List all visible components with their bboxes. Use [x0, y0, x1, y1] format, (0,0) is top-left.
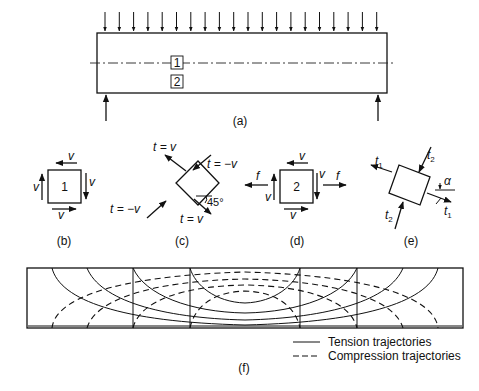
shear-label-right: v: [89, 175, 96, 189]
panel-a-beam: 1 2 (a): [90, 12, 395, 128]
panel-b-element-1: 1 v v v v (b): [33, 149, 96, 248]
normal-label-right: f: [336, 169, 341, 183]
caption-d: (d): [290, 234, 305, 248]
caption-f: (f): [238, 361, 249, 375]
element-2-number: 2: [293, 180, 300, 194]
shear-label-bottom: v: [58, 208, 65, 222]
stress-trajectory-figure: 1 2 (a) 1 v v v v (b) t = v t = −v t = −…: [0, 0, 479, 391]
panel-f-stress-trajectories: Tension trajectories Compression traject…: [27, 268, 463, 375]
alpha-label: α: [444, 174, 452, 188]
angle-45-label: 45°: [207, 196, 224, 208]
element-1-label: 1: [174, 56, 181, 70]
panel-d-element-2: 2 v v v v f f (d): [245, 149, 346, 248]
shear-label-left: v: [33, 180, 40, 194]
caption-b: (b): [57, 234, 72, 248]
legend-tension-label: Tension trajectories: [328, 335, 431, 349]
t1-label-left: t1: [375, 154, 383, 170]
t1-label-right: t1: [444, 204, 452, 220]
element-1-number: 1: [61, 180, 68, 194]
caption-a: (a): [233, 114, 248, 128]
t2-label-top: t2: [427, 148, 435, 164]
distributed-load-arrows: [105, 12, 377, 31]
compression-arrow-lower-left: [147, 201, 166, 218]
label-t-eq-minus-v-right: t = −v: [207, 157, 238, 171]
label-t-eq-minus-v-left: t = −v: [110, 202, 141, 216]
legend-compression-label: Compression trajectories: [328, 349, 461, 363]
caption-c: (c): [175, 234, 189, 248]
panel-c-principal-stresses: t = v t = −v t = −v t = v 45° (c): [110, 140, 238, 248]
shear-label-right: v: [319, 167, 326, 181]
shear-label-left: v: [265, 190, 272, 204]
label-t-eq-v-bottom: t = v: [180, 212, 204, 226]
tension-arrow-upper-left: [165, 155, 186, 171]
legend: Tension trajectories Compression traject…: [293, 335, 461, 363]
tension-trajectories: [28, 268, 462, 328]
shear-label-top: v: [68, 149, 75, 163]
shear-label-top: v: [299, 149, 306, 163]
rotated-element-alpha: [389, 165, 430, 205]
label-t-eq-v-top: t = v: [153, 140, 177, 154]
shear-label-bottom: v: [290, 208, 297, 222]
alpha-dimension-tick: [436, 198, 441, 204]
caption-e: (e): [404, 234, 419, 248]
t2-arrow-bottom: [395, 202, 403, 229]
panel-e-principal-element: t1 t2 t2 t1 α (e): [371, 147, 455, 248]
element-2-label: 2: [174, 75, 181, 89]
t2-label-bottom: t2: [385, 208, 393, 224]
normal-label-left: f: [256, 169, 261, 183]
